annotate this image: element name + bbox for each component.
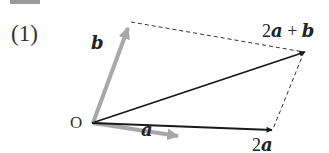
- dashed-side-right: [273, 52, 304, 129]
- sum-a-term: a: [271, 20, 283, 41]
- sum-b-term: b: [302, 20, 315, 41]
- vector-a-label: a: [141, 121, 153, 139]
- vector-b-label: b: [91, 34, 104, 52]
- origin-label: O: [70, 114, 82, 131]
- part-label: (1): [11, 22, 38, 45]
- sum-coefficient: 2: [262, 21, 271, 41]
- vector-2a-plus-b-label: 2a + b: [262, 22, 314, 40]
- two-a-coefficient: 2: [252, 135, 261, 153]
- sum-plus-sign: +: [283, 21, 302, 41]
- two-a-term: a: [261, 134, 273, 153]
- vector-2a-plus-b-arrow: [92, 52, 305, 123]
- vector-2a-label: 2a: [252, 136, 273, 153]
